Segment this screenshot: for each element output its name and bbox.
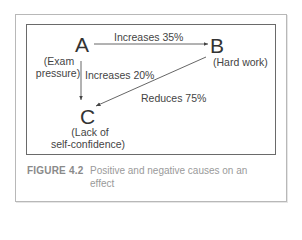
node-a-label-1: (Exam [34,55,84,67]
node-a-label-2: pressure) [33,67,83,79]
edge-a-c-label: Increases 20% [85,69,154,81]
node-c-letter: C [80,106,95,127]
edge-a-b-label: Increases 35% [114,31,183,43]
node-c-label-2: self-confidence) [38,138,138,150]
edge-b-c-label: Reduces 75% [141,92,206,104]
node-c-label-1: (Lack of [40,126,140,138]
caption-number: FIGURE 4.2 [27,164,83,177]
caption-text: Positive and negative causes on an effec… [90,164,270,190]
node-b-label: (Hard work) [213,56,268,68]
node-a-letter: A [75,34,89,55]
node-b-letter: B [210,35,224,56]
